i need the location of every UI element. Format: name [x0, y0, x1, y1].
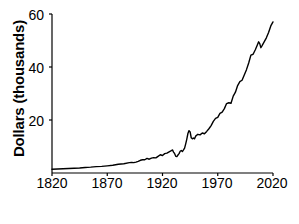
x-tick-label-1970: 1970	[187, 176, 247, 190]
x-tick-label-2020: 2020	[242, 176, 299, 190]
y-tick-label-20: 20	[10, 114, 44, 128]
x-tick-label-1820: 1820	[22, 176, 82, 190]
chart-figure: Dollars (thousands) 60 40 20 1820 1870 1…	[0, 0, 299, 224]
x-tick-label-1870: 1870	[77, 176, 137, 190]
data-line-series	[52, 22, 273, 169]
y-tick-labels: 60 40 20	[8, 0, 44, 180]
y-tick-label-40: 40	[10, 61, 44, 75]
y-tick-label-60: 60	[10, 8, 44, 22]
x-tick-label-1920: 1920	[132, 176, 192, 190]
axis-spines	[52, 14, 273, 173]
